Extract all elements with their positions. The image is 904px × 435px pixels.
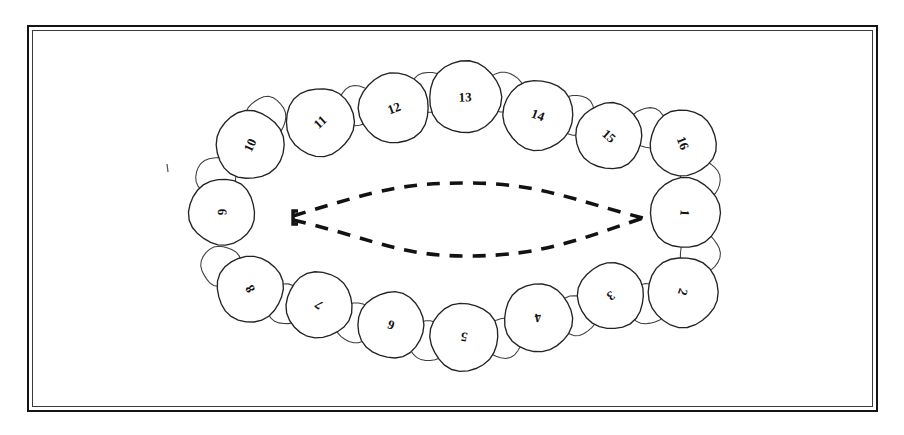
page-canvas: 12345678910111213141516	[0, 0, 904, 435]
diagram-frame-outer	[27, 25, 878, 412]
diagram-frame-inner	[32, 30, 873, 407]
